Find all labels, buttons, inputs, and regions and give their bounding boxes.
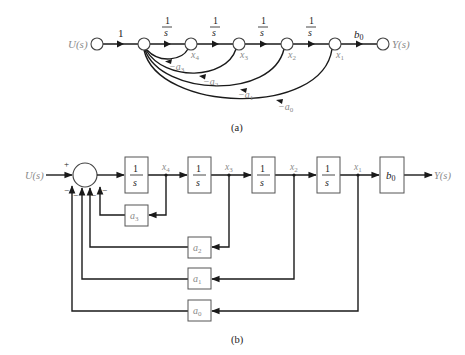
bd-state-x3: x3 xyxy=(224,162,233,174)
sfg-state-x2: x2 xyxy=(287,49,296,62)
sfg-feedback-a0: −a0 xyxy=(278,101,294,114)
sfg-input-label: U(s) xyxy=(68,38,88,51)
sfg-output-label: Y(s) xyxy=(392,38,410,51)
sfg-integrator-gain-2: 1 s xyxy=(210,15,220,38)
svg-text:s: s xyxy=(212,27,216,38)
sfg-gain-1: 1 xyxy=(118,27,124,39)
sum-minus-sign-1: − xyxy=(64,185,69,195)
sfg-feedback-a3: −a3 xyxy=(169,61,185,74)
caption-a: (a) xyxy=(231,122,243,134)
svg-text:1: 1 xyxy=(260,163,265,174)
block-diagram: U(s) + − − − − 1 s xyxy=(25,157,451,346)
svg-text:s: s xyxy=(325,177,329,188)
sum-minus-sign-4: − xyxy=(102,185,107,195)
svg-text:1: 1 xyxy=(133,163,138,174)
sum-plus-sign: + xyxy=(64,159,69,169)
sfg-state-x1: x1 xyxy=(335,49,344,62)
sfg-node-input xyxy=(91,38,103,50)
bd-state-x2: x2 xyxy=(289,162,298,174)
svg-text:s: s xyxy=(133,177,137,188)
bd-output-label: Y(s) xyxy=(434,170,451,182)
integrator-block-3: 1 s xyxy=(252,157,275,193)
svg-text:1: 1 xyxy=(196,163,201,174)
sum-minus-sign-3: − xyxy=(91,190,96,200)
svg-text:1: 1 xyxy=(261,15,266,26)
sfg-output-gain: b0 xyxy=(354,28,364,42)
svg-text:s: s xyxy=(260,177,264,188)
feedback-block-a1: a1 xyxy=(188,268,211,289)
svg-text:1: 1 xyxy=(213,15,218,26)
sfg-integrator-gain-3: 1 s xyxy=(258,15,268,38)
sum-minus-sign-2: − xyxy=(73,190,78,200)
sfg-feedback-a1: −a1 xyxy=(238,89,254,102)
state-space-diagrams: U(s) xyxy=(0,0,465,355)
bd-state-x4: x4 xyxy=(161,162,170,174)
signal-flow-graph: U(s) xyxy=(68,15,410,134)
svg-text:1: 1 xyxy=(325,163,330,174)
bd-state-x1: x1 xyxy=(353,162,362,174)
integrator-block-1: 1 s xyxy=(125,157,148,193)
summing-junction xyxy=(73,163,97,187)
svg-text:s: s xyxy=(164,27,168,38)
sfg-integrator-gain-1: 1 s xyxy=(162,15,172,38)
caption-b: (b) xyxy=(231,334,244,346)
sfg-state-x3: x3 xyxy=(239,49,248,62)
svg-text:s: s xyxy=(196,177,200,188)
svg-text:1: 1 xyxy=(165,15,170,26)
feedback-block-a0: a0 xyxy=(188,300,211,321)
svg-text:1: 1 xyxy=(309,15,314,26)
sfg-feedback-a2: −a2 xyxy=(203,76,219,89)
sfg-integrator-gain-4: 1 s xyxy=(306,15,316,38)
sfg-state-x4: x4 xyxy=(190,49,199,62)
integrator-block-2: 1 s xyxy=(188,157,211,193)
output-gain-block: b0 xyxy=(380,157,404,193)
integrator-block-4: 1 s xyxy=(317,157,340,193)
bd-feedback-paths xyxy=(72,175,358,311)
feedback-block-a2: a2 xyxy=(188,237,211,258)
sfg-node-sum xyxy=(138,38,150,50)
feedback-block-a3: a3 xyxy=(125,205,148,226)
bd-input-label: U(s) xyxy=(25,170,44,182)
sfg-node-output xyxy=(377,38,389,50)
svg-text:s: s xyxy=(260,27,264,38)
svg-text:s: s xyxy=(308,27,312,38)
